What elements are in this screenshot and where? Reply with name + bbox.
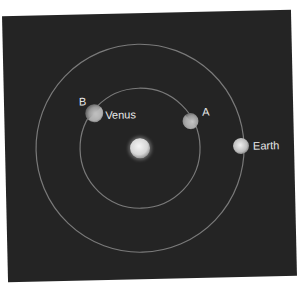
earth-icon — [233, 138, 249, 154]
orbit-diagram: B Venus A Earth — [0, 0, 301, 284]
label-b: B — [79, 95, 87, 107]
label-a: A — [202, 106, 210, 118]
venus-at-a — [182, 113, 198, 129]
label-venus: Venus — [105, 108, 136, 121]
label-earth: Earth — [253, 139, 280, 152]
